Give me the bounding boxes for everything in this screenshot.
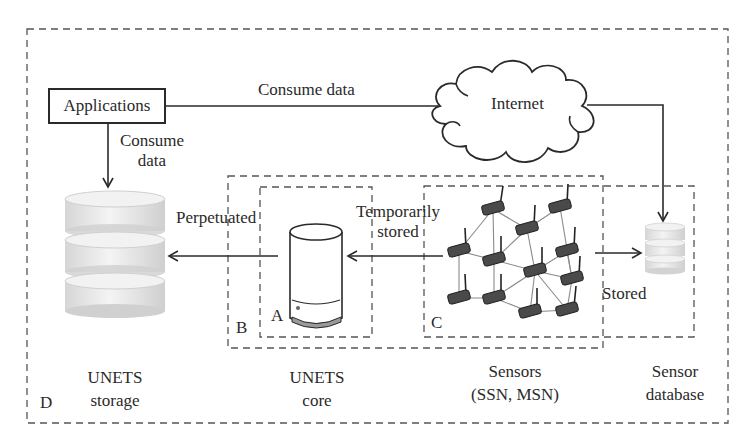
- diagram-canvas: Applications Consume data Consume data P…: [0, 0, 750, 441]
- label-line: UNETS: [65, 366, 165, 389]
- edge-label-consume-data: Consume data: [258, 80, 355, 100]
- sensor-network: [447, 184, 584, 319]
- region-d-label: D: [40, 393, 52, 413]
- edge-label-stored: Stored: [602, 284, 646, 304]
- unets-storage-database-icon: [65, 191, 165, 318]
- unets-core-label: UNETS core: [267, 366, 367, 412]
- edge-label-perpetuated: Perpetuated: [176, 208, 256, 228]
- sensor-node-icon: [481, 186, 505, 216]
- sensor-node-icon: [515, 205, 539, 236]
- region-c-label: C: [431, 313, 442, 333]
- sensor-node-icon: [555, 227, 579, 258]
- edge-label-line: Consume: [112, 131, 192, 151]
- sensor-database-label: Sensor database: [620, 360, 730, 406]
- sensor-node-icon: [523, 247, 547, 278]
- sensor-node-icon: [560, 256, 584, 286]
- edge-label-line: data: [112, 151, 192, 171]
- region-a-label: A: [271, 306, 283, 326]
- sensors-label: Sensors (SSN, MSN): [455, 360, 575, 406]
- label-line: Sensor: [620, 360, 730, 383]
- edge-label-line: Temporarily: [345, 202, 451, 222]
- sensor-node-icon: [555, 286, 579, 317]
- edge-internet-sensordb: [587, 105, 663, 221]
- label-line: Sensors: [455, 360, 575, 383]
- label-line: core: [267, 389, 367, 412]
- label-line: storage: [65, 389, 165, 412]
- edge-label-line: stored: [345, 222, 451, 242]
- label-line: database: [620, 383, 730, 406]
- edge-label-consume-data-vertical: Consume data: [112, 131, 192, 171]
- region-b-label: B: [236, 318, 247, 338]
- label-line: UNETS: [267, 366, 367, 389]
- unets-storage-label: UNETS storage: [65, 366, 165, 412]
- unets-core-device-icon: [290, 224, 342, 328]
- sensor-database-icon: [645, 223, 685, 275]
- sensor-node-icon: [548, 184, 572, 214]
- internet-label: Internet: [491, 94, 544, 114]
- label-line: (SSN, MSN): [455, 383, 575, 406]
- sensor-node-icon: [518, 288, 542, 319]
- applications-label: Applications: [64, 96, 151, 116]
- applications-node: Applications: [48, 88, 166, 124]
- edge-label-temporarily-stored: Temporarily stored: [345, 202, 451, 242]
